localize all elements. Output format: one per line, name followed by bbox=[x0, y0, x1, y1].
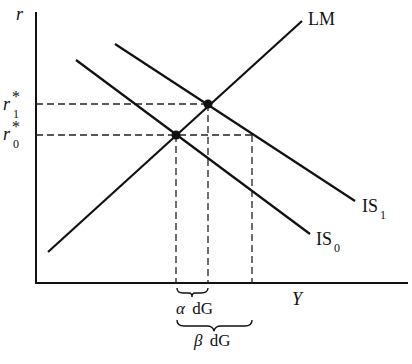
axes bbox=[35, 12, 408, 283]
beta-brace bbox=[177, 320, 252, 331]
svg-text:r: r bbox=[3, 124, 11, 144]
svg-text:*: * bbox=[12, 118, 20, 135]
svg-text:IS: IS bbox=[362, 196, 378, 216]
beta-dg-label: β dG bbox=[193, 331, 231, 350]
is0-curve bbox=[76, 60, 310, 234]
alpha-brace bbox=[177, 288, 208, 297]
guide-lines bbox=[36, 104, 252, 283]
svg-text:*: * bbox=[12, 88, 20, 105]
svg-text:1: 1 bbox=[380, 208, 386, 222]
is1-label: IS 1 bbox=[362, 196, 386, 222]
equilibrium-e0 bbox=[172, 131, 181, 140]
svg-text:r: r bbox=[3, 94, 11, 114]
svg-text:0: 0 bbox=[334, 241, 340, 255]
lm-label: LM bbox=[308, 9, 335, 29]
x-axis-label: Y bbox=[292, 289, 304, 309]
y-axis-label: r bbox=[16, 4, 24, 24]
equilibrium-e1 bbox=[204, 100, 213, 109]
curves bbox=[48, 21, 355, 252]
alpha-dg-label: α dG bbox=[176, 299, 213, 318]
is-lm-diagram: r Y r * 1 r * 0 LM IS 0 IS 1 α dG β dG bbox=[0, 0, 412, 364]
svg-text:IS: IS bbox=[316, 229, 332, 249]
r0-star-label: r * 0 bbox=[3, 118, 20, 151]
r1-star-label: r * 1 bbox=[3, 88, 20, 121]
svg-text:0: 0 bbox=[13, 137, 19, 151]
is0-label: IS 0 bbox=[316, 229, 340, 255]
